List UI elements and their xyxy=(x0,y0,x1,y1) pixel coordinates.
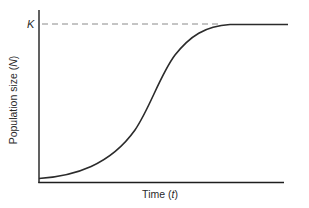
k-label: K xyxy=(27,18,35,30)
y-axis-label: Population size (N) xyxy=(7,56,19,145)
x-axis-label: Time (t) xyxy=(142,188,178,200)
x-axis-label-suffix: ) xyxy=(174,188,178,200)
y-axis-label-suffix: ) xyxy=(7,56,19,60)
y-axis-label-prefix: Population size ( xyxy=(7,66,19,144)
x-axis-label-prefix: Time ( xyxy=(142,188,172,200)
logistic-growth-chart: K Population size (N) Time (t) xyxy=(0,0,309,208)
logistic-curve xyxy=(39,25,288,179)
